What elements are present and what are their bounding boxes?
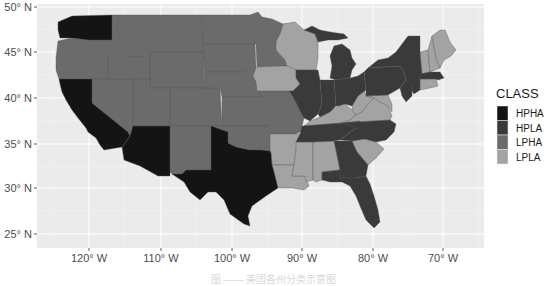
state-massachusetts <box>420 72 444 80</box>
legend-label: HPHA <box>516 108 544 119</box>
legend-key-hpla <box>497 121 508 136</box>
legend-key-hpha <box>497 106 508 121</box>
y-tick-label: 50° N <box>4 1 32 13</box>
x-tick-label: 120° W <box>71 252 108 264</box>
legend-label: HPLA <box>516 123 542 134</box>
state-oregon <box>56 38 112 79</box>
legend-title: CLASS <box>496 86 539 101</box>
legend-label: LPLA <box>516 152 541 163</box>
state-new-mexico <box>170 126 211 174</box>
figure-caption: 图 —— 美国各州分类示意图 <box>0 271 547 286</box>
legend: CLASS HPHA HPLA LPHA LPLA <box>496 86 544 164</box>
x-tick-label: 110° W <box>143 252 179 264</box>
x-axis: 120° W 110° W 100° W 90° W 80° W 70° W <box>71 248 459 264</box>
y-tick-label: 30° N <box>4 182 32 194</box>
x-tick-label: 70° W <box>428 252 459 264</box>
x-tick-label: 90° W <box>287 252 318 264</box>
y-tick-label: 40° N <box>4 92 32 104</box>
state-north-dakota <box>202 15 255 44</box>
state-colorado <box>170 88 222 126</box>
x-tick-label: 100° W <box>214 252 251 264</box>
legend-key-lpla <box>497 150 508 165</box>
state-south-dakota <box>203 44 256 76</box>
state-kansas <box>222 97 268 126</box>
state-iowa <box>253 66 300 91</box>
x-tick-label: 80° W <box>358 252 389 264</box>
state-washington <box>58 15 112 40</box>
state-wyoming <box>150 52 205 88</box>
y-tick-label: 25° N <box>4 228 32 240</box>
y-axis: 50° N 45° N 40° N 35° N 30° N 25° N <box>4 1 37 240</box>
legend-key-lpha <box>497 135 508 150</box>
state-montana <box>118 15 204 56</box>
y-tick-label: 45° N <box>4 46 32 58</box>
legend-label: LPHA <box>516 137 542 148</box>
y-tick-label: 35° N <box>4 138 32 150</box>
